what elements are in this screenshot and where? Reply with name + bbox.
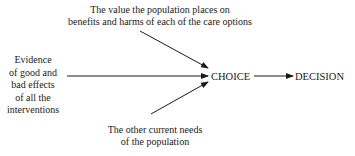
- arrow-bottom-to-choice: [151, 82, 208, 114]
- arrow-top-to-choice: [140, 31, 208, 68]
- top-input-label: The value the population places on benef…: [45, 4, 275, 28]
- left-input-line-4: of all the: [0, 92, 66, 105]
- left-input-line-5: interventions: [0, 104, 66, 117]
- bottom-input-label: The other current needs of the populatio…: [80, 124, 230, 148]
- decision-node: DECISION: [295, 71, 344, 83]
- left-input-label: Evidence of good and bad effects of all …: [0, 54, 66, 117]
- bottom-input-line-1: The other current needs: [80, 124, 230, 136]
- left-input-line-1: Evidence: [0, 54, 66, 67]
- top-input-line-1: The value the population places on: [45, 4, 275, 16]
- top-input-line-2: benefits and harms of each of the care o…: [45, 16, 275, 28]
- left-input-line-2: of good and: [0, 67, 66, 80]
- bottom-input-line-2: of the population: [80, 136, 230, 148]
- choice-node: CHOICE: [211, 71, 250, 83]
- left-input-line-3: bad effects: [0, 79, 66, 92]
